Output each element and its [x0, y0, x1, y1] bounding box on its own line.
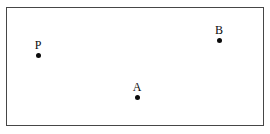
point-label-a: A [133, 81, 142, 93]
point-label-b: B [215, 24, 223, 36]
point-marker-p [36, 53, 41, 58]
diagram-canvas: P A B [0, 0, 270, 134]
point-marker-b [217, 38, 222, 43]
bounding-rectangle [6, 7, 264, 126]
point-marker-a [135, 95, 140, 100]
point-label-p: P [35, 39, 42, 51]
